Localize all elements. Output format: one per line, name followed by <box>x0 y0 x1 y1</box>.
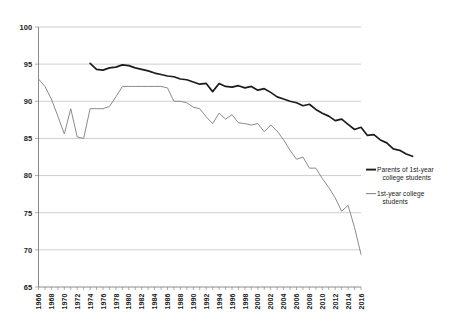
series-line-parents <box>90 63 413 156</box>
x-axis-tick-label: 2002 <box>267 294 274 310</box>
x-axis-tick-label: 1980 <box>125 294 132 310</box>
x-axis-tick-label: 2000 <box>254 294 261 310</box>
y-axis-tick-label: 90 <box>24 97 33 106</box>
x-axis-tick-label: 1972 <box>74 294 81 310</box>
gridlines <box>39 27 362 250</box>
x-axis-labels: 1966196819701972197419761978198019821984… <box>35 294 365 310</box>
x-axis-tick-label: 1974 <box>87 294 94 310</box>
x-axis-ticks <box>39 287 362 290</box>
y-axis-ticks <box>35 27 39 287</box>
x-axis-tick-label: 2016 <box>358 294 365 310</box>
legend-label-line1: 1st-year college <box>377 190 425 198</box>
x-axis-tick-label: 2004 <box>280 294 287 310</box>
y-axis-tick-label: 85 <box>24 134 33 143</box>
x-axis <box>39 27 362 287</box>
legend-label-line2: students <box>383 198 409 205</box>
x-axis-tick-label: 1984 <box>151 294 158 310</box>
series-lines <box>39 63 413 254</box>
y-axis-tick-label: 80 <box>24 171 33 180</box>
x-axis-tick-label: 2012 <box>332 294 339 310</box>
chart-container: 65707580859095100 1966196819701972197419… <box>0 0 459 331</box>
y-axis-tick-label: 75 <box>24 209 33 218</box>
legend-label-line1: Parents of 1st-year <box>377 166 434 174</box>
x-axis-tick-label: 1990 <box>190 294 197 310</box>
chart-legend: Parents of 1st-yearcollege students1st-y… <box>366 166 434 205</box>
y-axis-tick-label: 100 <box>19 23 32 32</box>
x-axis-tick-label: 1986 <box>164 294 171 310</box>
x-axis-tick-label: 1988 <box>177 294 184 310</box>
y-axis-tick-label: 70 <box>24 246 33 255</box>
line-chart: 65707580859095100 1966196819701972197419… <box>0 0 459 331</box>
series-line-students <box>39 79 362 254</box>
y-axis-labels: 65707580859095100 <box>19 23 32 292</box>
x-axis-tick-label: 1970 <box>61 294 68 310</box>
x-axis-tick-label: 1996 <box>229 294 236 310</box>
x-axis-tick-label: 1992 <box>203 294 210 310</box>
legend-label-line2: college students <box>383 174 432 182</box>
x-axis-tick-label: 2006 <box>293 294 300 310</box>
y-axis-tick-label: 65 <box>24 283 33 292</box>
y-axis-tick-label: 95 <box>24 60 33 69</box>
x-axis-tick-label: 1998 <box>242 294 249 310</box>
x-axis-tick-label: 1994 <box>216 294 223 310</box>
x-axis-tick-label: 2010 <box>319 294 326 310</box>
x-axis-tick-label: 2008 <box>306 294 313 310</box>
x-axis-tick-label: 1976 <box>100 294 107 310</box>
x-axis-tick-label: 2014 <box>345 294 352 310</box>
x-axis-tick-label: 1982 <box>138 294 145 310</box>
x-axis-tick-label: 1978 <box>113 294 120 310</box>
x-axis-tick-label: 1968 <box>48 294 55 310</box>
x-axis-tick-label: 1966 <box>35 294 42 310</box>
